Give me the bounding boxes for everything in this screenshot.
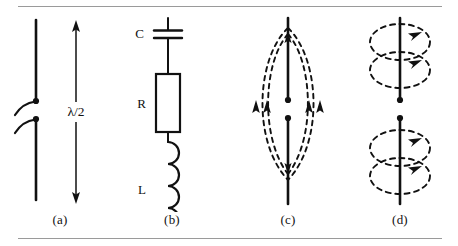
- m-field-arrowhead-lower-1: [408, 138, 422, 147]
- panel-equivalent-rlc-circuit: C R L (b): [116, 12, 228, 234]
- inductor-label: L: [138, 182, 146, 197]
- feed-terminal-dot-lower: [397, 115, 403, 121]
- electric-field-diagram: [230, 12, 346, 212]
- feed-lead-curve-lower: [15, 120, 36, 134]
- magnetic-field-diagram: [346, 12, 454, 212]
- e-field-arrowhead-left-outer: [252, 100, 260, 113]
- m-field-arrowhead-lower-2: [408, 166, 422, 175]
- feed-terminal-dot-lower: [285, 115, 291, 121]
- capacitor-label: C: [135, 26, 144, 41]
- e-field-arrowhead-left-inner: [263, 100, 271, 113]
- inductor-coil: [168, 142, 179, 212]
- rlc-circuit-diagram: C R L: [116, 12, 228, 212]
- panel-dipole-antenna-structure: λ/2 (a): [6, 12, 114, 234]
- feed-terminal-dot-upper: [285, 97, 291, 103]
- panel-caption-a: (a): [6, 212, 114, 228]
- resistor-body: [156, 74, 180, 132]
- wavelength-dimension-label: λ/2: [67, 104, 84, 119]
- panel-electric-field-pattern: (c): [230, 12, 346, 234]
- panel-caption-b: (b): [116, 212, 228, 228]
- e-field-arrowhead-right-outer: [316, 100, 324, 113]
- feed-lead-curve-upper: [15, 102, 36, 116]
- bottom-divider-rule: [18, 238, 442, 239]
- panel-caption-c: (c): [230, 212, 346, 228]
- panel-magnetic-field-pattern: (d): [346, 12, 454, 234]
- m-field-arrowhead-upper-1: [408, 32, 422, 41]
- m-field-arrowhead-upper-2: [408, 60, 422, 69]
- resistor-label: R: [137, 96, 146, 111]
- top-divider-rule: [18, 6, 442, 7]
- feed-terminal-dot-upper: [397, 97, 403, 103]
- e-field-arrowhead-right-inner: [305, 100, 313, 113]
- figure-container: λ/2 (a) C R L (b): [0, 0, 458, 246]
- panel-caption-d: (d): [346, 212, 454, 228]
- dipole-antenna-diagram: λ/2: [6, 12, 114, 212]
